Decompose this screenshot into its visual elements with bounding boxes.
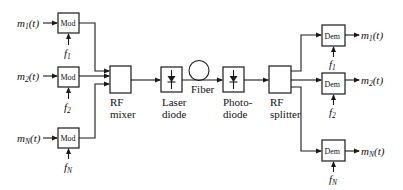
- rf-splitter: RF splitter: [269, 66, 301, 120]
- photodiode-label-line1: Photo-: [223, 96, 253, 108]
- mod-block-n-label: Mod: [61, 134, 76, 143]
- rf-splitter-label-line2: splitter: [270, 108, 301, 120]
- rf-splitter-block: [269, 66, 291, 93]
- fiber-coil-icon: [189, 61, 209, 81]
- carrier-out-1-label: f1: [329, 58, 336, 72]
- carrier-out-n-label: fN: [329, 173, 338, 187]
- fdm-fiber-link-diagram: m1(t) Mod f1 m2(t) Mod f2 mN(t) Mod fN R…: [0, 0, 403, 190]
- carrier-2-label: f2: [64, 101, 71, 115]
- rf-mixer-block: [110, 66, 131, 93]
- laser-diode: Laser diode: [161, 67, 187, 120]
- dem-block-2-label: Dem: [325, 80, 341, 89]
- carrier-n-label: fN: [64, 161, 73, 175]
- rf-mixer-label-line1: RF: [110, 96, 123, 108]
- input-channel-n: mN(t) Mod fN: [17, 84, 109, 175]
- mod-1-to-mixer-wire: [79, 23, 109, 71]
- photodiode-label-line2: diode: [223, 108, 248, 120]
- rf-splitter-label-line1: RF: [270, 96, 283, 108]
- output-channel-1: Dem f1 m1(t): [291, 25, 383, 72]
- laser-diode-label-line1: Laser: [162, 96, 187, 108]
- input-channel-1: m1(t) Mod f1: [17, 13, 109, 71]
- output-signal-1-label: m1(t): [361, 29, 383, 43]
- dem-block-n-label: Dem: [325, 147, 341, 156]
- photodiode: Photo- diode: [223, 67, 253, 120]
- dem-block-1-label: Dem: [325, 32, 341, 41]
- carrier-1-label: f1: [64, 47, 71, 61]
- input-signal-n-label: mN(t): [17, 132, 41, 146]
- output-signal-2-label: m2(t): [361, 74, 383, 88]
- rf-mixer: RF mixer: [110, 66, 136, 120]
- mod-block-1-label: Mod: [61, 19, 76, 28]
- mod-block-2-label: Mod: [61, 73, 76, 82]
- input-signal-1-label: m1(t): [17, 17, 39, 31]
- output-channel-n: Dem fN mN(t): [291, 87, 385, 187]
- fiber-label: Fiber: [191, 83, 215, 95]
- fiber: Fiber: [182, 61, 222, 96]
- input-signal-2-label: m2(t): [17, 70, 39, 84]
- output-channel-2: Dem f2 m2(t): [291, 73, 383, 120]
- output-signal-n-label: mN(t): [361, 145, 385, 159]
- mod-n-to-mixer-wire: [79, 84, 109, 138]
- splitter-to-dem-1-wire: [291, 35, 321, 71]
- rf-mixer-label-line2: mixer: [110, 108, 136, 120]
- laser-diode-label-line2: diode: [162, 108, 187, 120]
- carrier-out-2-label: f2: [329, 106, 336, 120]
